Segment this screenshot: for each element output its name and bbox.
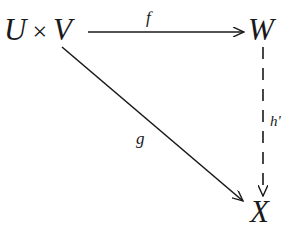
node-u: U [4, 12, 26, 47]
node-v: V [53, 12, 72, 47]
node-u-times-v: U×V [4, 14, 72, 45]
node-w: W [248, 14, 274, 45]
label-h-prime: h' [270, 114, 281, 129]
arrow-g [62, 47, 243, 201]
times-operator: × [32, 17, 47, 46]
label-g: g [136, 130, 145, 147]
node-x: X [250, 196, 269, 226]
label-f: f [146, 9, 151, 26]
